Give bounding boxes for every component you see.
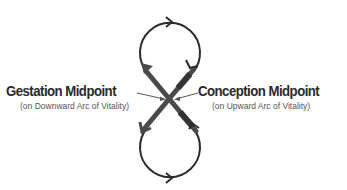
gestation-leader-line bbox=[137, 93, 164, 99]
sheath-lower-right bbox=[180, 112, 193, 127]
gestation-midpoint-sublabel: (on Downward Arc of Vitality) bbox=[20, 101, 129, 111]
arrow-upper-right-down-icon bbox=[186, 60, 198, 68]
conception-midpoint-label: Conception Midpoint bbox=[198, 83, 319, 99]
lower-loop-arc bbox=[140, 128, 200, 177]
gestation-midpoint-label: Gestation Midpoint bbox=[6, 83, 116, 99]
conception-leader-arrow-icon bbox=[174, 97, 180, 102]
upper-loop-arc bbox=[140, 23, 200, 72]
sheath-upper-right bbox=[178, 74, 190, 88]
conception-midpoint-sublabel: (on Upward Arc of Vitality) bbox=[212, 101, 310, 111]
